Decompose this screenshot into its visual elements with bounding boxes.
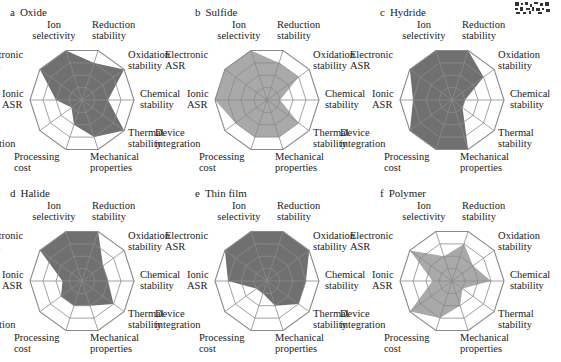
- axis-label-electronic-asr: ElectronicASR: [350, 230, 410, 252]
- radar-panel-halide: dHalideIonselectivityReductionstabilityO…: [0, 181, 187, 362]
- axis-label-line2: stability: [277, 211, 337, 222]
- axis-label-line2: stability: [510, 280, 561, 291]
- axis-label-line1: Mechanical: [460, 332, 530, 343]
- axis-label-oxidation-stability: Oxidationstability: [498, 230, 558, 252]
- axis-label-processing-cost: Processingcost: [199, 332, 259, 354]
- axis-label-line1: Processing: [384, 332, 444, 343]
- data-polygon: [215, 51, 299, 138]
- axis-label-device-integration: Deviceintegration: [340, 308, 410, 330]
- radar-panel-hydride: cHydrideIonselectivityReductionstability…: [370, 0, 557, 181]
- axis-label-line2: properties: [460, 162, 530, 173]
- axis-label-line1: Mechanical: [275, 332, 345, 343]
- axis-label-line2: cost: [199, 162, 259, 173]
- axis-label-line2: selectivity: [24, 211, 84, 222]
- axis-label-line2: cost: [14, 162, 74, 173]
- axis-label-oxidation-stability: Oxidationstability: [498, 49, 558, 71]
- axis-label-line1: Ion: [24, 19, 84, 30]
- axis-label-line2: integration: [155, 138, 225, 149]
- axis-label-device-integration: Deviceintegration: [0, 127, 40, 149]
- axis-label-reduction-stability: Reductionstability: [92, 200, 152, 222]
- axis-label-processing-cost: Processingcost: [384, 151, 444, 173]
- axis-label-line2: properties: [460, 343, 530, 354]
- axis-label-line1: Device: [0, 127, 40, 138]
- axis-label-line2: stability: [92, 30, 152, 41]
- axis-label-line2: properties: [90, 162, 160, 173]
- axis-label-line2: ASR: [0, 60, 40, 71]
- axis-label-line2: selectivity: [24, 30, 84, 41]
- radar-panel-polymer: fPolymerIonselectivityReductionstability…: [370, 181, 557, 362]
- axis-label-line1: Ionic: [372, 88, 402, 99]
- axis-label-line2: ASR: [2, 280, 32, 291]
- axis-label-line1: Electronic: [350, 230, 410, 241]
- axis-label-line1: Reduction: [277, 19, 337, 30]
- axis-label-line1: Mechanical: [90, 332, 160, 343]
- axis-label-line1: Reduction: [92, 200, 152, 211]
- axis-label-processing-cost: Processingcost: [14, 332, 74, 354]
- axis-label-line1: Electronic: [350, 49, 410, 60]
- axis-label-line1: Device: [0, 308, 40, 319]
- axis-label-line1: Ionic: [2, 88, 32, 99]
- axis-label-line1: Electronic: [0, 49, 40, 60]
- axis-label-line1: Reduction: [462, 200, 522, 211]
- axis-label-line2: integration: [340, 319, 410, 330]
- axis-label-line1: Electronic: [165, 230, 225, 241]
- axis-label-ion-selectivity: Ionselectivity: [24, 200, 84, 222]
- radar-panel-sulfide: bSulfideIonselectivityReductionstability…: [185, 0, 372, 181]
- axis-label-ion-selectivity: Ionselectivity: [394, 19, 454, 41]
- axis-label-line2: stability: [498, 241, 558, 252]
- axis-label-line2: stability: [498, 60, 558, 71]
- axis-label-line2: cost: [14, 343, 74, 354]
- axis-label-line1: Thermal: [498, 308, 558, 319]
- axis-label-line1: Device: [155, 127, 225, 138]
- axis-label-ionic-asr: IonicASR: [187, 269, 217, 291]
- axis-label-chemical-stability: Chemicalstability: [510, 88, 561, 110]
- axis-label-line2: ASR: [165, 60, 225, 71]
- axis-label-line1: Reduction: [92, 19, 152, 30]
- axis-label-mechanical-properties: Mechanicalproperties: [275, 151, 345, 173]
- axis-label-line2: stability: [498, 319, 558, 330]
- axis-label-line2: stability: [510, 99, 561, 110]
- axis-label-line1: Processing: [14, 151, 74, 162]
- axis-label-ionic-asr: IonicASR: [2, 269, 32, 291]
- axis-label-mechanical-properties: Mechanicalproperties: [275, 332, 345, 354]
- axis-label-line1: Ion: [209, 19, 269, 30]
- axis-label-line2: stability: [462, 30, 522, 41]
- axis-label-line2: ASR: [350, 241, 410, 252]
- radar-panel-oxide: aOxideIonselectivityReductionstabilityOx…: [0, 0, 187, 181]
- radar-panel-thin-film: eThin filmIonselectivityReductionstabili…: [185, 181, 372, 362]
- axis-label-line2: properties: [275, 343, 345, 354]
- axis-label-line2: ASR: [350, 60, 410, 71]
- axis-label-line1: Mechanical: [90, 151, 160, 162]
- axis-label-line1: Reduction: [462, 19, 522, 30]
- axis-label-line1: Device: [340, 127, 410, 138]
- axis-label-ionic-asr: IonicASR: [372, 88, 402, 110]
- axis-label-processing-cost: Processingcost: [199, 151, 259, 173]
- axis-label-line1: Oxidation: [498, 230, 558, 241]
- axis-label-mechanical-properties: Mechanicalproperties: [460, 332, 530, 354]
- axis-label-electronic-asr: ElectronicASR: [350, 49, 410, 71]
- axis-label-line1: Reduction: [277, 200, 337, 211]
- axis-label-reduction-stability: Reductionstability: [277, 200, 337, 222]
- axis-label-reduction-stability: Reductionstability: [92, 19, 152, 41]
- axis-label-processing-cost: Processingcost: [384, 332, 444, 354]
- axis-label-line2: cost: [384, 162, 444, 173]
- axis-label-device-integration: Deviceintegration: [155, 308, 225, 330]
- axis-label-thermal-stability: Thermalstability: [498, 127, 558, 149]
- axis-label-line1: Device: [340, 308, 410, 319]
- axis-label-electronic-asr: ElectronicASR: [0, 230, 40, 252]
- axis-label-line1: Ion: [394, 200, 454, 211]
- axis-label-line2: stability: [462, 211, 522, 222]
- axis-label-line1: Chemical: [510, 269, 561, 280]
- axis-label-mechanical-properties: Mechanicalproperties: [90, 332, 160, 354]
- axis-label-line2: selectivity: [394, 30, 454, 41]
- axis-label-line2: cost: [199, 343, 259, 354]
- axis-label-line1: Processing: [199, 332, 259, 343]
- axis-label-ionic-asr: IonicASR: [372, 269, 402, 291]
- axis-label-line1: Ion: [24, 200, 84, 211]
- axis-label-ion-selectivity: Ionselectivity: [394, 200, 454, 222]
- axis-label-line1: Ionic: [187, 88, 217, 99]
- axis-label-line2: ASR: [2, 99, 32, 110]
- axis-label-ionic-asr: IonicASR: [2, 88, 32, 110]
- axis-label-line2: integration: [340, 138, 410, 149]
- axis-label-line1: Processing: [199, 151, 259, 162]
